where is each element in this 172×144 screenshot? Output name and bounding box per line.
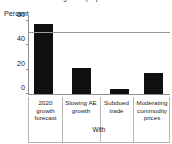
- category-line: growth: [62, 107, 100, 115]
- bar-chart: Contributions to growth projections Perc…: [0, 0, 172, 144]
- y-tick-mark-60: [26, 20, 28, 21]
- category-line: trade: [100, 107, 133, 115]
- bar-subdued-trade: [110, 89, 129, 95]
- y-tick-mark-0: [26, 93, 28, 94]
- y-tick-mark-20: [26, 69, 28, 70]
- category-line: Moderating: [133, 99, 171, 107]
- category-line: growth: [29, 107, 62, 115]
- bar-slowing-ae-growth: [72, 68, 91, 95]
- category-label-subdued-trade: Subdued trade: [100, 97, 133, 125]
- y-tick-label-40: 40: [17, 35, 25, 42]
- bar-2020-growth-forecast: [34, 24, 53, 94]
- category-line: Subdued: [100, 99, 133, 107]
- y-tick-mark-40: [26, 44, 28, 45]
- x-axis-baseline: [28, 94, 170, 95]
- chart-title: Contributions to growth projections: [12, 0, 162, 2]
- category-line: prices: [133, 114, 171, 122]
- category-line: Slowing AE: [62, 99, 100, 107]
- category-label-band: 2020 growth forecast Slowing AE growth S…: [28, 97, 170, 143]
- category-line: commodity: [133, 107, 171, 115]
- category-label-slowing-ae-growth: Slowing AE growth: [62, 97, 100, 125]
- y-axis-line: [28, 16, 29, 95]
- y-tick-label-0: 0: [21, 84, 25, 91]
- bar-moderating-commodity-prices: [144, 73, 163, 95]
- y-tick-label-20: 20: [17, 59, 25, 66]
- plot-area: 0 20 40 60: [28, 16, 170, 95]
- category-label-moderating-commodity-prices: Moderating commodity prices: [133, 97, 171, 125]
- category-line: forecast: [29, 114, 62, 122]
- category-label-2020-growth-forecast: 2020 growth forecast: [29, 97, 62, 125]
- reference-line: [28, 32, 170, 33]
- y-tick-label-60: 60: [17, 11, 25, 18]
- x-axis-label: With: [28, 126, 170, 134]
- category-line: 2020: [29, 99, 62, 107]
